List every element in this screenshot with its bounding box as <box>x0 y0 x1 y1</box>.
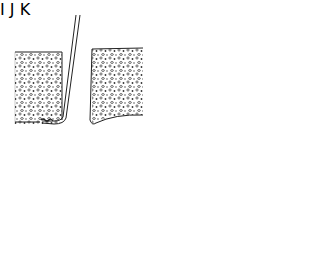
panel-i <box>15 15 143 124</box>
figure-illustration <box>0 0 325 275</box>
